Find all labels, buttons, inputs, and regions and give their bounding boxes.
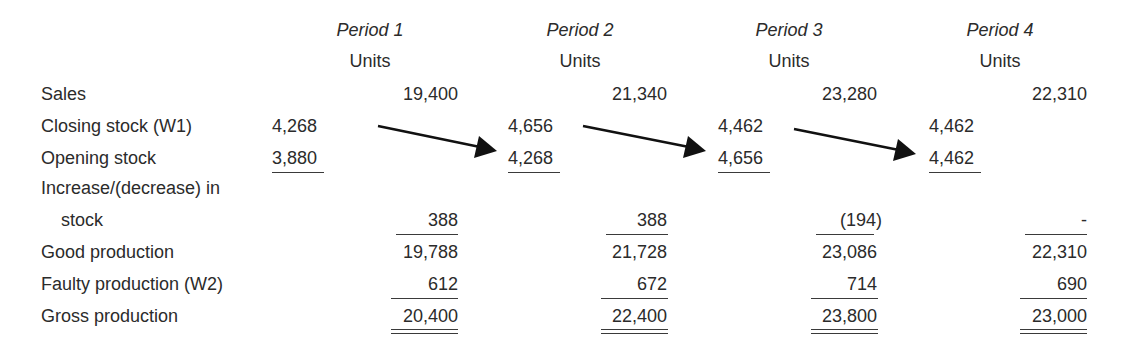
arrow-icon — [583, 126, 706, 158]
carry-forward-arrows — [0, 0, 1129, 357]
arrow-icon — [378, 126, 497, 158]
arrow-icon — [794, 129, 916, 161]
